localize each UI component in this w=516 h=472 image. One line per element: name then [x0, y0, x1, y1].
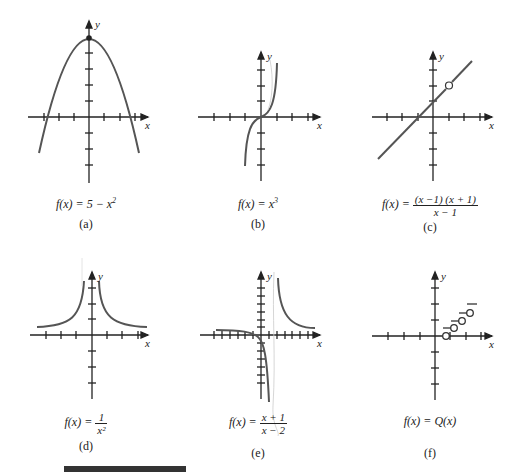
label-f: (f) [344, 446, 516, 461]
svg-text:y: y [266, 50, 272, 62]
formula-c: f(x) = (x −1) (x + 1)x − 1 [344, 193, 516, 218]
label-d: (d) [0, 439, 172, 454]
panel-e: y x f(x) = x + 1x − 2 (e) [172, 236, 344, 472]
panel-a: y x f(x) = 5 − x2 (a) [0, 0, 172, 236]
label-a: (a) [0, 217, 172, 232]
formula-e: f(x) = x + 1x − 2 [172, 411, 344, 436]
label-e: (e) [172, 446, 344, 461]
svg-text:y: y [440, 270, 446, 282]
svg-text:y: y [266, 270, 272, 282]
panel-d: y x f(x) = 1x² (d) [0, 236, 172, 472]
label-b: (b) [172, 217, 344, 232]
svg-text:x: x [144, 337, 150, 349]
panel-b: y x f(x) = x3 (b) [172, 0, 344, 236]
panel-f: y x f(x) = Q(x) (f) [344, 236, 516, 472]
svg-text:y: y [94, 18, 100, 30]
svg-text:x: x [488, 119, 494, 131]
formula-a: f(x) = 5 − x2 [0, 196, 172, 212]
svg-text:x: x [488, 338, 494, 350]
panel-c: y x f(x) = (x −1) (x + 1)x − 1 (c) [344, 0, 516, 236]
redaction-bar [64, 466, 186, 472]
svg-text:x: x [144, 119, 150, 131]
graph-step: y x [344, 236, 516, 472]
svg-text:x: x [316, 337, 322, 349]
formula-d: f(x) = 1x² [0, 411, 172, 436]
graph-inverse-square: y x [0, 236, 172, 472]
svg-text:x: x [316, 119, 322, 131]
svg-text:y: y [97, 270, 103, 282]
label-c: (c) [344, 220, 516, 235]
svg-text:y: y [438, 50, 444, 62]
graph-rational: y x [172, 236, 344, 472]
formula-f: f(x) = Q(x) [344, 414, 516, 429]
formula-b: f(x) = x3 [172, 196, 344, 212]
